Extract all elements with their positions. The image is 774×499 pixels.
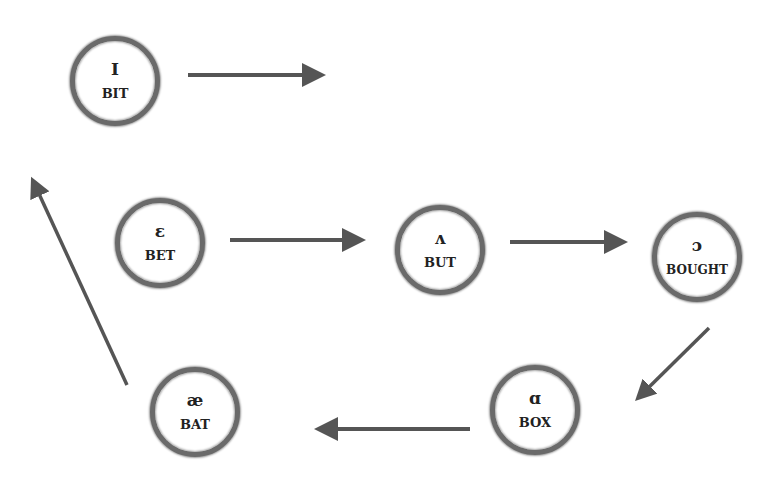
ipa-symbol: ʌ [435,228,446,248]
ipa-symbol: ɔ [692,235,702,255]
arrow-bought-to-box [640,328,709,396]
ipa-symbol: ɑ [529,388,541,408]
vowel-node-bought: ɔ BOUGHT [652,212,742,302]
vowel-node-but: ʌ BUT [395,205,485,295]
ipa-symbol: I [111,59,119,79]
example-word: BIT [102,85,129,103]
vowel-node-box: ɑ BOX [490,365,580,455]
vowel-node-bet: ɛ BET [115,198,205,288]
example-word: BOX [519,414,551,432]
vowel-node-bat: æ BAT [150,367,240,457]
example-word: BOUGHT [666,261,728,279]
vowel-node-bit: I BIT [70,36,160,126]
example-word: BAT [180,416,210,434]
ipa-symbol: ɛ [155,221,165,241]
ipa-symbol: æ [187,390,204,410]
arrow-bat-up-left [34,183,127,385]
example-word: BUT [424,254,456,272]
example-word: BET [145,247,176,265]
vowel-shift-diagram: I BIT ɛ BET ʌ BUT ɔ BOUGHT æ BAT ɑ BOX [0,0,774,499]
